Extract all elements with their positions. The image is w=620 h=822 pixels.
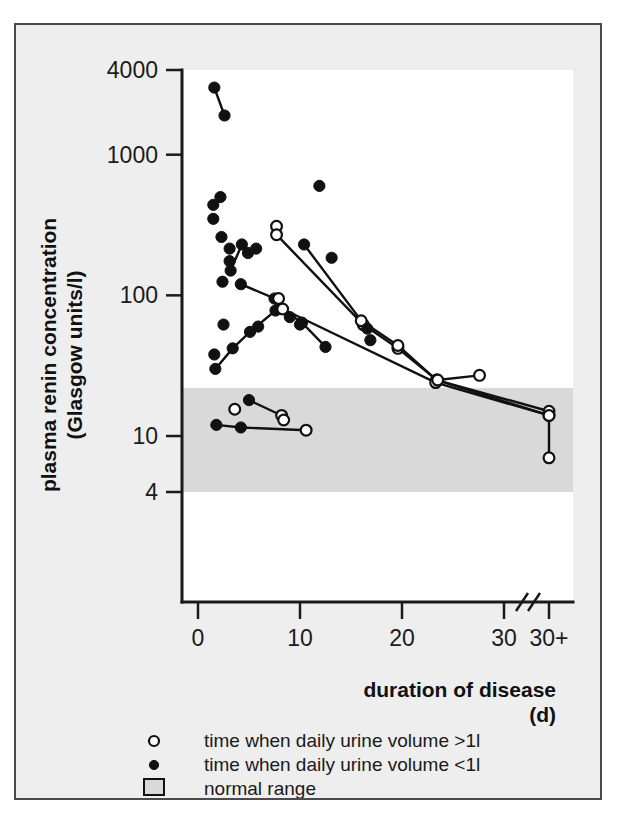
legend-marker-shaded-square [144,779,164,795]
y-tick-label-4000: 4000 [107,57,158,83]
data-point-open [474,370,485,381]
data-point-filled [217,276,228,287]
renin-scatter-chart: 40001000100104010203030+ plasma renin co… [16,25,600,798]
data-point-filled [243,395,254,406]
data-point-filled [253,321,264,332]
chart-legend: time when daily urine volume >1ltime whe… [144,730,480,798]
data-point-filled [225,265,236,276]
x-tick-label-0: 0 [192,625,205,651]
y-tick-label-4: 4 [145,479,158,505]
data-point-filled [314,180,325,191]
data-point-open [393,340,404,351]
y-tick-label-10: 10 [132,423,158,449]
y-tick-label-1000: 1000 [107,142,158,168]
x-tick-label-30: 30 [491,625,517,651]
data-point-open [273,293,284,304]
x-tick-label-30+: 30+ [529,625,568,651]
data-point-open [544,452,555,463]
data-point-filled [251,243,262,254]
data-point-open [278,415,289,426]
data-point-open [544,410,555,421]
data-point-filled [211,419,222,430]
legend-label-2: normal range [204,778,316,798]
data-point-filled [365,335,376,346]
data-point-open [229,404,240,415]
x-tick-label-10: 10 [287,625,313,651]
data-point-filled [224,243,235,254]
data-point-filled [209,349,220,360]
data-point-filled [216,231,227,242]
x-tick-label-20: 20 [389,625,415,651]
data-point-open [277,304,288,315]
y-tick-label-100: 100 [120,282,158,308]
legend-marker-filled-circle [149,760,158,769]
data-point-filled [227,343,238,354]
data-point-filled [218,319,229,330]
data-point-filled [235,279,246,290]
data-point-filled [235,422,246,433]
plot-area-background [182,70,573,602]
figure-page: 40001000100104010203030+ plasma renin co… [0,0,620,822]
y-axis-title-line1: plasma renin concentration [37,218,60,492]
legend-label-1: time when daily urine volume <1l [204,754,480,775]
data-point-filled [215,191,226,202]
data-point-filled [294,319,305,330]
data-point-open [432,375,443,386]
legend-marker-open-circle [149,736,159,746]
data-point-filled [209,82,220,93]
data-point-filled [298,239,309,250]
data-point-filled [210,363,221,374]
figure-frame: 40001000100104010203030+ plasma renin co… [14,23,602,800]
data-point-filled [208,213,219,224]
data-point-filled [219,110,230,121]
data-point-open [301,425,312,436]
x-axis-title: duration of disease [363,678,556,701]
data-point-open [271,229,282,240]
data-point-filled [326,252,337,263]
y-axis-title-line2: (Glasgow units/l) [63,270,86,439]
x-axis-title-units: (d) [529,703,556,726]
data-point-filled [362,323,373,334]
plot-background [182,70,573,602]
data-point-filled [320,341,331,352]
legend-label-0: time when daily urine volume >1l [204,730,480,751]
